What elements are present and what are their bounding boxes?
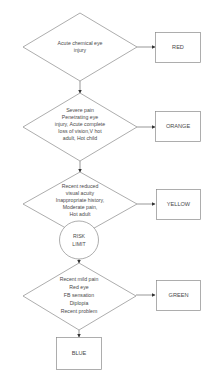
- decision-acute-chemical-eye-injury: Acute chemical eye injury: [23, 13, 137, 81]
- decision-severe-pain: Severe pain Penetrating eye injury, Acut…: [23, 93, 137, 161]
- decision-2-line-2: Penetrating eye: [62, 114, 98, 120]
- triage-flowchart: Acute chemical eye injury RED Severe pai…: [0, 0, 213, 382]
- decision-3-line-1: Recent reduced: [62, 183, 99, 189]
- decision-3-line-4: Moderate pain,: [63, 204, 98, 210]
- decision-1-line-2: injury: [74, 47, 87, 53]
- outcome-green-box: GREEN: [157, 281, 201, 311]
- decision-2-line-1: Severe pain: [66, 107, 94, 113]
- outcome-red-box: RED: [156, 33, 201, 63]
- decision-3-line-5: Hot adult: [70, 211, 91, 217]
- risk-limit-line-1: RISK: [73, 233, 86, 239]
- risk-limit-line-2: LIMIT: [72, 241, 86, 247]
- decision-2-line-4: loss of vision,V hot: [58, 128, 102, 134]
- outcome-green-label: GREEN: [169, 292, 189, 298]
- risk-limit-connector: RISK LIMIT: [60, 221, 99, 259]
- decision-3-line-3: Inappropriate history,: [56, 197, 104, 203]
- outcome-yellow-label: YELLOW: [167, 201, 191, 207]
- decision-2-line-3: injury, Acute complete: [55, 121, 105, 127]
- decision-2-line-5: adult, Hot child: [63, 135, 97, 141]
- outcome-red-label: RED: [172, 44, 184, 50]
- outcome-yellow-box: YELLOW: [157, 190, 201, 220]
- decision-4-line-3: FB sensation: [64, 292, 94, 298]
- decision-3-line-2: visual acuity: [66, 190, 95, 196]
- decision-4-line-2: Red eye: [69, 284, 88, 290]
- decision-4-line-1: Recent mild pain: [60, 276, 99, 282]
- decision-4-line-4: Diplopia: [70, 300, 89, 306]
- outcome-orange-box: ORANGE: [156, 112, 201, 142]
- outcome-orange-label: ORANGE: [166, 123, 191, 129]
- decision-recent-mild-pain: Recent mild pain Red eye FB sensation Di…: [23, 263, 136, 330]
- outcome-blue-box: BLUE: [57, 338, 102, 370]
- decision-1-line-1: Acute chemical eye: [58, 40, 103, 46]
- outcome-blue-label: BLUE: [72, 350, 87, 356]
- decision-4-line-5: Recent problem: [61, 308, 98, 314]
